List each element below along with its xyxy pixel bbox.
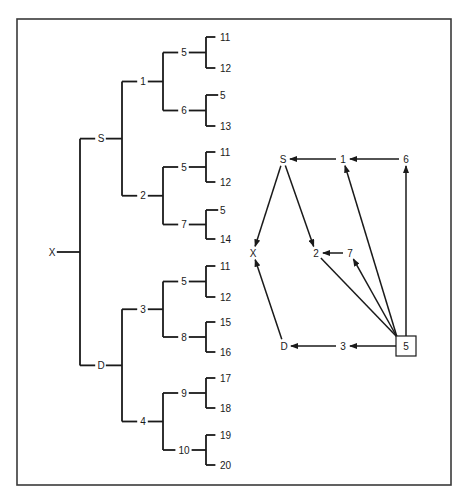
figure-frame [17, 19, 451, 485]
tree-node-label: 9 [181, 388, 187, 399]
tree-node-label: X [49, 247, 56, 258]
search-tree: 11125513611112551472S1112515168317189192… [49, 32, 232, 471]
diagram: 11125513611112551472S1112515168317189192… [0, 0, 463, 500]
tree-node-label: S [98, 133, 105, 144]
tree-node-label: D [97, 360, 104, 371]
graph-node-label: 6 [403, 154, 409, 165]
tree-node-label: 5 [181, 47, 187, 58]
tree-node-label: 4 [140, 416, 146, 427]
tree-leaf-label: 11 [220, 147, 231, 158]
graph-edge-S-to-X [255, 166, 281, 247]
graph-node-label: 5 [403, 341, 409, 352]
tree-leaf-label: 5 [220, 205, 226, 216]
graph-edge-S-to-2 [285, 166, 313, 247]
tree-leaf-label: 5 [220, 90, 226, 101]
tree-node-label: 3 [140, 304, 146, 315]
tree-leaf-label: 16 [220, 347, 232, 358]
tree-leaf-label: 14 [220, 234, 232, 245]
graph-node-label: 3 [340, 341, 346, 352]
tree-leaf-label: 11 [220, 261, 231, 272]
graph-node-label: D [280, 341, 287, 352]
tree-node-label: 5 [181, 276, 187, 287]
tree-node-label: 2 [140, 190, 146, 201]
tree-node-label: 8 [181, 332, 187, 343]
tree-node-label: 7 [181, 219, 187, 230]
tree-leaf-label: 18 [220, 403, 232, 414]
graph-node-label: X [250, 248, 257, 259]
tree-node-label: 6 [181, 105, 187, 116]
graph-edge-D-to-X [255, 260, 282, 340]
tree-leaf-label: 19 [220, 430, 232, 441]
tree-leaf-label: 17 [220, 373, 232, 384]
tree-leaf-label: 20 [220, 460, 232, 471]
tree-leaf-label: 12 [220, 63, 232, 74]
tree-leaf-label: 12 [220, 177, 232, 188]
tree-leaf-label: 12 [220, 292, 232, 303]
tree-node-label: 10 [178, 445, 190, 456]
graph-edge-5-to-1 [345, 166, 397, 337]
state-graph: S16X27D35 [250, 154, 416, 357]
tree-node-label: 1 [140, 76, 146, 87]
graph-node-label: 2 [313, 248, 319, 259]
tree-leaf-label: 13 [220, 121, 232, 132]
graph-node-label: 7 [347, 248, 353, 259]
tree-leaf-label: 11 [220, 32, 231, 43]
graph-node-label: S [280, 154, 287, 165]
tree-leaf-label: 15 [220, 317, 232, 328]
tree-node-label: 5 [181, 162, 187, 173]
graph-node-label: 1 [340, 154, 346, 165]
